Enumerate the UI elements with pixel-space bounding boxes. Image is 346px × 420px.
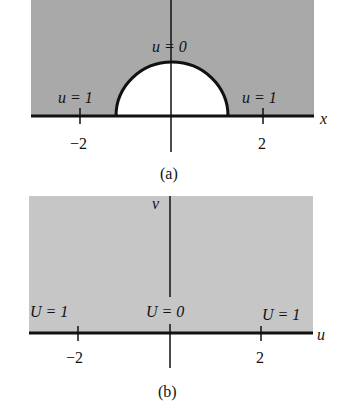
tick-label-neg2-b: −2 [66,349,83,366]
label-U0: U = 0 [146,303,184,320]
tick-label-neg2: −2 [70,135,87,152]
caption-a: (a) [160,165,178,183]
diagram-canvas: x −2 2 u = 0 u = 1 u = 1 (a) v u −2 2 U … [0,0,346,420]
tick-label-pos2: 2 [258,135,266,152]
v-axis-label: v [152,195,160,212]
label-u1-right: u = 1 [242,89,277,106]
label-U1-left: U = 1 [30,303,68,320]
x-axis-label: x [319,110,327,127]
label-u0: u = 0 [152,38,187,55]
u-axis-label: u [317,326,325,343]
caption-b: (b) [158,383,177,401]
label-U1-right: U = 1 [262,306,300,323]
panel-a: x −2 2 u = 0 u = 1 u = 1 (a) [31,0,327,183]
panel-b: v u −2 2 U = 1 U = 0 U = 1 (b) [29,195,325,401]
tick-label-pos2-b: 2 [256,349,264,366]
label-u1-left: u = 1 [58,89,93,106]
